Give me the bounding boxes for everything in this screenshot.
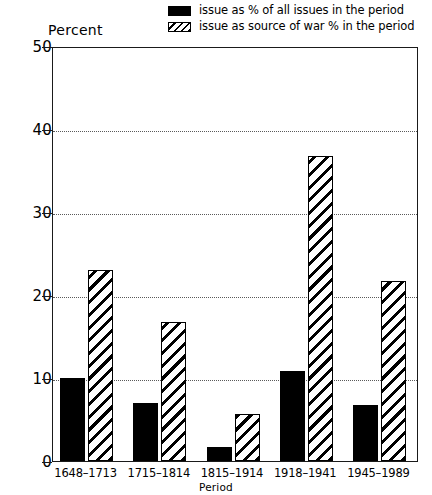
legend-item-0: issue as % of all issues in the period <box>168 3 430 18</box>
chart-legend: issue as % of all issues in the period i… <box>168 3 430 35</box>
plot-area <box>52 47 418 462</box>
legend-label-0: issue as % of all issues in the period <box>199 4 404 17</box>
bar-2-series-0 <box>207 447 232 461</box>
bar-3-series-1 <box>308 156 333 461</box>
legend-swatch-hatch-icon <box>168 22 191 32</box>
gridline-30 <box>53 214 417 215</box>
x-tick-label-2: 1815–1914 <box>201 466 263 480</box>
y-axis-ticks: 01020304050 <box>0 0 52 495</box>
x-axis-title: Period <box>0 481 432 493</box>
x-tick-label-0: 1648–1713 <box>54 466 116 480</box>
x-tick-label-1: 1715–1814 <box>128 466 190 480</box>
y-tick-mark-0 <box>42 462 52 463</box>
bar-2-series-1 <box>235 414 260 461</box>
gridline-40 <box>53 131 417 132</box>
bar-0-series-1 <box>88 270 113 461</box>
legend-swatch-solid-icon <box>168 6 191 16</box>
bar-4-series-1 <box>381 281 406 461</box>
y-tick-mark-30 <box>42 213 52 214</box>
y-axis-title: Percent <box>48 22 103 38</box>
legend-label-1: issue as source of war % in the period <box>199 20 414 33</box>
plot-inner <box>53 48 417 461</box>
bar-3-series-0 <box>280 371 305 461</box>
bar-1-series-0 <box>133 403 158 461</box>
bar-1-series-1 <box>161 322 186 461</box>
y-tick-mark-20 <box>42 296 52 297</box>
x-tick-label-4: 1945–1989 <box>347 466 409 480</box>
bar-4-series-0 <box>353 405 378 461</box>
x-tick-label-3: 1918–1941 <box>274 466 336 480</box>
legend-item-1: issue as source of war % in the period <box>168 19 430 34</box>
y-tick-mark-40 <box>42 130 52 131</box>
bar-chart: issue as % of all issues in the period i… <box>0 0 432 495</box>
y-tick-mark-10 <box>42 379 52 380</box>
y-tick-mark-50 <box>42 47 52 48</box>
bar-0-series-0 <box>60 378 85 461</box>
